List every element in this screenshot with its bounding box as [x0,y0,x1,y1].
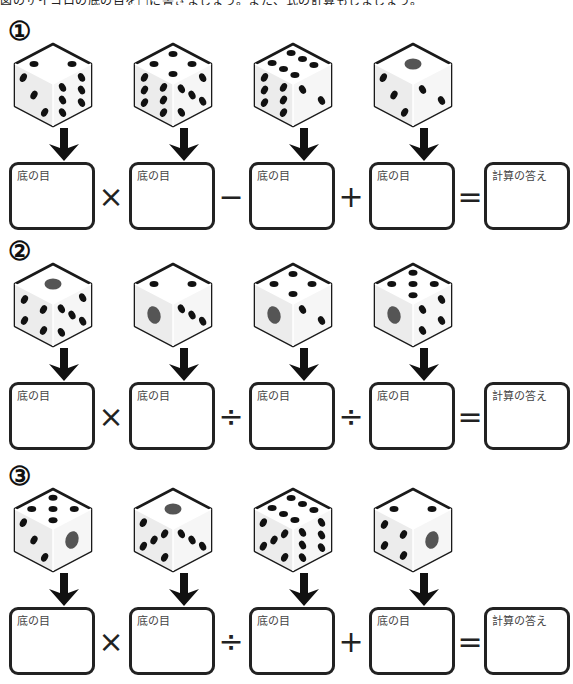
dice-4-image [371,40,455,128]
dice-icon [131,260,215,350]
dice-4-image [371,485,455,573]
bottom-face-box-label: 底の目 [17,387,50,403]
dice-2-image [131,260,215,348]
bottom-face-input-box[interactable]: 底の目 [369,382,455,450]
bottom-face-box-label: 底の目 [17,612,50,628]
down-arrow-icon [407,573,441,607]
answer-box-label: 計算の答え [492,612,547,628]
bottom-face-box-label: 底の目 [377,387,410,403]
dice-2-image [131,485,215,573]
bottom-face-input-box[interactable]: 底の目 [249,162,335,230]
dice-2-image [131,40,215,128]
answer-box-label: 計算の答え [492,387,547,403]
down-arrow-icon [287,348,321,382]
bottom-face-input-box[interactable]: 底の目 [129,162,215,230]
operator-symbol: = [456,402,484,432]
operator-symbol: + [337,182,365,212]
bottom-face-box-label: 底の目 [257,612,290,628]
bottom-face-box-label: 底の目 [257,167,290,183]
dice-3-image [251,40,335,128]
operator-symbol: × [97,402,125,432]
down-arrow-icon [47,348,81,382]
operator-symbol: ÷ [337,402,365,432]
operator-symbol: ÷ [217,627,245,657]
dice-icon [11,40,95,130]
answer-input-box[interactable]: 計算の答え [484,162,570,230]
dice-1-image [11,40,95,128]
bottom-face-box-label: 底の目 [377,612,410,628]
operator-symbol: × [97,627,125,657]
dice-3-image [251,485,335,573]
down-arrow-icon [167,573,201,607]
bottom-face-box-label: 底の目 [137,167,170,183]
down-arrow-icon [287,128,321,162]
bottom-face-box-label: 底の目 [17,167,50,183]
answer-box-label: 計算の答え [492,167,547,183]
operator-symbol: × [97,182,125,212]
bottom-face-box-label: 底の目 [257,387,290,403]
bottom-face-box-label: 底の目 [137,387,170,403]
bottom-face-input-box[interactable]: 底の目 [9,162,95,230]
dice-icon [371,260,455,350]
instruction-text: 図のサイコロの底の目を□に書きましょう。また、式の計算もしましょう。 [0,0,573,5]
dice-icon [251,40,335,130]
bottom-face-box-label: 底の目 [137,612,170,628]
dice-icon [131,485,215,575]
dice-3-image [251,260,335,348]
bottom-face-input-box[interactable]: 底の目 [369,162,455,230]
dice-1-image [11,260,95,348]
answer-input-box[interactable]: 計算の答え [484,382,570,450]
bottom-face-input-box[interactable]: 底の目 [129,607,215,675]
dice-icon [131,40,215,130]
bottom-face-input-box[interactable]: 底の目 [129,382,215,450]
bottom-face-box-label: 底の目 [377,167,410,183]
dice-icon [371,40,455,130]
operator-symbol: − [217,182,245,212]
bottom-face-input-box[interactable]: 底の目 [9,607,95,675]
down-arrow-icon [407,348,441,382]
down-arrow-icon [167,128,201,162]
down-arrow-icon [47,128,81,162]
dice-icon [371,485,455,575]
dice-icon [11,260,95,350]
dice-icon [11,485,95,575]
bottom-face-input-box[interactable]: 底の目 [369,607,455,675]
operator-symbol: ÷ [217,402,245,432]
operator-symbol: + [337,627,365,657]
answer-input-box[interactable]: 計算の答え [484,607,570,675]
bottom-face-input-box[interactable]: 底の目 [249,607,335,675]
bottom-face-input-box[interactable]: 底の目 [249,382,335,450]
dice-icon [251,485,335,575]
dice-1-image [11,485,95,573]
operator-symbol: = [456,627,484,657]
down-arrow-icon [167,348,201,382]
down-arrow-icon [407,128,441,162]
bottom-face-input-box[interactable]: 底の目 [9,382,95,450]
operator-symbol: = [456,182,484,212]
down-arrow-icon [47,573,81,607]
down-arrow-icon [287,573,321,607]
dice-4-image [371,260,455,348]
dice-icon [251,260,335,350]
